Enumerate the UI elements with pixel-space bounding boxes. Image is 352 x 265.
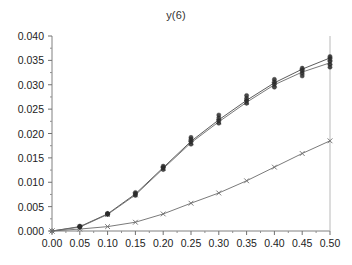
y-tick-label: 0.020 [2, 128, 44, 140]
y-tick-label: 0.000 [2, 225, 44, 237]
plot-canvas [0, 0, 352, 265]
y-tick-label: 0.010 [2, 176, 44, 188]
chart-figure: y(6) 0.0000.0050.0100.0150.0200.0250.030… [0, 0, 352, 265]
x-tick-label: 0.50 [310, 237, 350, 249]
y-tick-label: 0.035 [2, 54, 44, 66]
y-tick-label: 0.030 [2, 79, 44, 91]
y-tick-label: 0.025 [2, 103, 44, 115]
y-tick-label: 0.015 [2, 152, 44, 164]
y-tick-label: 0.005 [2, 201, 44, 213]
y-tick-label: 0.040 [2, 30, 44, 42]
